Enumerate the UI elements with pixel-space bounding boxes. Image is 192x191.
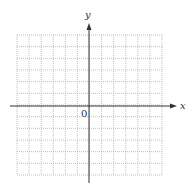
x-axis-arrow-icon [170, 104, 177, 109]
y-axis-arrow-icon [87, 23, 92, 30]
y-axis-label: y [84, 9, 91, 20]
coordinate-plane: x y 0 [0, 0, 192, 191]
origin-label: 0 [81, 108, 87, 119]
x-axis-label: x [180, 100, 186, 111]
